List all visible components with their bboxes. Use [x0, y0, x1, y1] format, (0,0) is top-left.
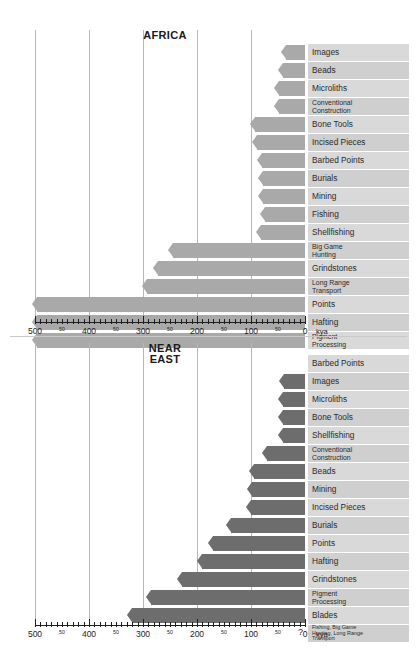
bar[interactable] [257, 135, 305, 150]
bar-row[interactable]: Long Range Transport [0, 278, 417, 295]
bar-row[interactable]: Microliths [0, 80, 417, 97]
axis-tick [273, 319, 274, 324]
bar-row[interactable]: Fishing [0, 206, 417, 223]
axis-tick [121, 319, 122, 324]
category-label-cell: Conventional Construction [308, 445, 409, 462]
bar[interactable] [151, 590, 305, 605]
bar[interactable] [267, 446, 305, 461]
category-label: Incised Pieces [312, 503, 366, 512]
category-label-cell: Images [308, 44, 409, 61]
bar[interactable] [255, 117, 305, 132]
axis-tick [67, 319, 68, 324]
axis-tick [197, 316, 198, 324]
bar[interactable] [279, 99, 305, 114]
bar-row[interactable]: Beads [0, 62, 417, 79]
bar-row[interactable]: Incised Pieces [0, 499, 417, 516]
bar[interactable] [231, 518, 305, 533]
axis-tick [283, 319, 284, 324]
bar-row[interactable]: Burials [0, 517, 417, 534]
category-label-cell: Bone Tools [308, 409, 409, 426]
bar[interactable] [265, 207, 306, 222]
bar[interactable] [254, 464, 305, 479]
axis-tick [159, 319, 160, 324]
bar[interactable] [252, 482, 305, 497]
bar-row[interactable]: Mining [0, 188, 417, 205]
axis-tick [35, 316, 36, 324]
axis-tick [84, 319, 85, 324]
bar-row[interactable]: Grindstones [0, 571, 417, 588]
bar[interactable] [251, 500, 305, 515]
axis-tick [116, 622, 117, 627]
bar[interactable] [263, 171, 305, 186]
bar[interactable] [158, 261, 305, 276]
category-label: Grindstones [312, 575, 357, 584]
axis-tick [170, 319, 171, 324]
bar[interactable] [213, 536, 305, 551]
axis-tick [154, 622, 155, 627]
africa-x-axis: kya 50040030020010005050505050 [0, 316, 417, 342]
bar-row[interactable]: Points [0, 535, 417, 552]
bar-row[interactable]: Pigment Processing [0, 589, 417, 606]
bar-row[interactable]: Incised Pieces [0, 134, 417, 151]
bar[interactable] [286, 45, 305, 60]
category-label: Grindstones [312, 264, 357, 273]
bar[interactable] [261, 225, 305, 240]
bar[interactable] [283, 410, 305, 425]
bar-row[interactable]: Hafting [0, 553, 417, 570]
bar[interactable] [182, 572, 305, 587]
axis-tick-label: 0 [303, 326, 308, 336]
axis-tick [202, 622, 203, 627]
bar-row[interactable]: Images [0, 373, 417, 390]
bar[interactable] [284, 374, 305, 389]
axis-tick [94, 622, 95, 627]
category-label-cell: Burials [308, 517, 409, 534]
bar[interactable] [173, 243, 305, 258]
bar-row[interactable]: Burials [0, 170, 417, 187]
bar-row[interactable]: Bone Tools [0, 409, 417, 426]
category-label: Shellfishing [312, 431, 354, 440]
bar[interactable] [37, 297, 305, 312]
bar-row[interactable]: Shellfishing [0, 427, 417, 444]
bar-row[interactable]: Bone Tools [0, 116, 417, 133]
bar-row[interactable]: Barbed Points [0, 152, 417, 169]
bar-row[interactable]: Shellfishing [0, 224, 417, 241]
axis-tick [62, 622, 63, 627]
bar[interactable] [283, 428, 305, 443]
bar-row[interactable]: Conventional Construction [0, 445, 417, 462]
bar[interactable] [147, 279, 305, 294]
axis-tick [192, 319, 193, 324]
bar-row[interactable]: Mining [0, 481, 417, 498]
axis-tick [40, 622, 41, 627]
bar[interactable] [262, 153, 305, 168]
bar[interactable] [202, 554, 305, 569]
axis-tick [94, 319, 95, 324]
axis-tick [192, 622, 193, 627]
bar-row[interactable]: Conventional Construction [0, 98, 417, 115]
axis-tick [57, 622, 58, 627]
axis-tick [181, 622, 182, 627]
axis-tick-label: 400 [82, 629, 96, 639]
axis-tick [235, 319, 236, 324]
bar-row[interactable]: Grindstones [0, 260, 417, 277]
axis-tick [57, 319, 58, 324]
bar-row[interactable]: Microliths [0, 391, 417, 408]
axis-tick [159, 622, 160, 627]
bar-row[interactable]: Points [0, 296, 417, 313]
category-label: Big Game Hunting [312, 243, 343, 258]
bar[interactable] [283, 392, 305, 407]
axis-tick [132, 622, 133, 627]
bar-row[interactable]: Big Game Hunting [0, 242, 417, 259]
axis-tick [78, 622, 79, 627]
category-label-cell: Beads [308, 463, 409, 480]
bar-row[interactable]: Barbed Points [0, 355, 417, 372]
axis-tick [105, 319, 106, 324]
category-label-cell: Fishing [308, 206, 409, 223]
bar-row[interactable]: Beads [0, 463, 417, 480]
bar-row[interactable]: Images [0, 44, 417, 61]
axis-tick [62, 319, 63, 324]
bar[interactable] [263, 189, 305, 204]
axis-tick [132, 319, 133, 324]
bar[interactable] [283, 63, 305, 78]
axis-tick [267, 622, 268, 627]
bar[interactable] [279, 81, 305, 96]
